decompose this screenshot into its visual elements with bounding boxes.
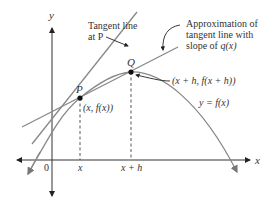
- tick-label-x-plus-h: x + h: [120, 162, 142, 173]
- approx-leader-arrow: [163, 25, 180, 50]
- point-p: [77, 95, 82, 100]
- origin-label: 0: [44, 162, 49, 173]
- approx-label-prefix: slope of: [186, 40, 220, 51]
- approx-label-line2: tangent line with: [186, 29, 253, 40]
- curve-f-left-arrow: [28, 152, 40, 174]
- tangent-secant-diagram: y x 0 x x + h P (x, f(x)) Q (x + h, f(x …: [0, 0, 274, 208]
- tangent-label-line1: Tangent line: [88, 20, 138, 31]
- point-q-coord-label: (x + h, f(x + h)): [172, 75, 236, 87]
- x-axis-label: x: [254, 154, 260, 166]
- point-q: [128, 69, 133, 74]
- point-q-label: Q: [127, 56, 135, 68]
- approx-label-line1: Approximation of: [186, 18, 259, 29]
- y-axis-label: y: [48, 9, 54, 21]
- approx-label-line3: slope of q(x): [186, 40, 237, 52]
- tick-label-x: x: [77, 162, 83, 173]
- approx-label-fn: q(x): [220, 40, 237, 52]
- point-p-label: P: [75, 83, 83, 95]
- curve-f: [28, 72, 237, 174]
- tangent-line: [32, 12, 137, 144]
- tangent-label-line2: at P: [88, 31, 104, 42]
- tangent-leader-arrow: [106, 37, 128, 46]
- point-p-coord-label: (x, f(x)): [83, 102, 114, 114]
- curve-label: y = f(x): [198, 97, 230, 109]
